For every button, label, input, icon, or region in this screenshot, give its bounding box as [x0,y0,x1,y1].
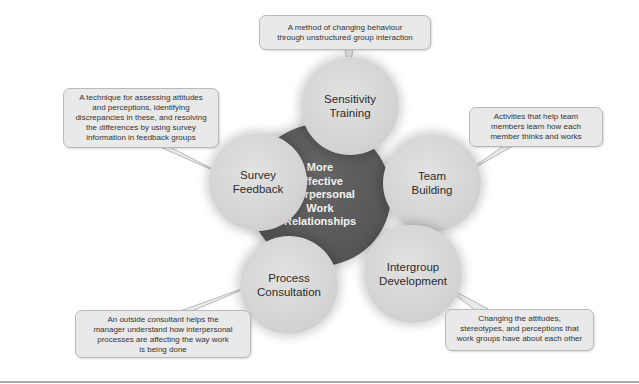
node-sensitivity-training: Sensitivity Training [301,57,399,155]
callout-text: work groups have about each other [451,334,588,344]
node-process-consultation: Process Consultation [240,236,338,334]
callout-text: through unstructured group interaction [265,33,425,43]
node-label: Intergroup [379,260,447,274]
bottom-divider [0,381,639,383]
callout-process-consultation: An outside consultant helps the manager … [75,310,251,358]
callout-survey-feedback: A technique for assessing attitudes and … [63,88,219,148]
callout-team-building: Activities that help team members learn … [469,107,603,147]
node-label: Training [324,106,376,120]
callout-sensitivity-training: A method of changing behaviour through u… [259,15,431,50]
callout-text: processes are affecting the way work [81,335,245,345]
callout-text: Activities that help team [475,112,597,122]
callout-text: information in feedback groups [69,133,213,143]
node-survey-feedback: Survey Feedback [209,133,307,231]
node-label: Feedback [233,182,284,196]
node-label: Development [379,274,447,288]
node-label: Sensitivity [324,92,376,106]
node-label: Building [412,183,453,197]
callout-text: manager understand how interpersonal [81,325,245,335]
callout-text: Changing the attitudes, [451,314,588,324]
diagram-canvas: More Effective Interpersonal Work Relati… [0,0,639,384]
callout-intergroup-development: Changing the attitudes, stereotypes, and… [445,309,594,351]
node-team-building: Team Building [383,134,481,232]
callout-text: is being done [81,345,245,355]
node-intergroup-development: Intergroup Development [364,225,462,323]
node-label: Team [412,169,453,183]
callout-text: members learn how each [475,122,597,132]
callout-text: A technique for assessing attitudes [69,93,213,103]
callout-text: the differences by using survey [69,123,213,133]
callout-text: A method of changing behaviour [265,23,425,33]
callout-text: stereotypes, and perceptions that [451,324,588,334]
callout-text: discrepancies in these, and resolving [69,113,213,123]
node-label: Survey [233,168,284,182]
callout-text: An outside consultant helps the [81,315,245,325]
center-line: Relationships [284,215,356,229]
node-label: Process [257,271,321,285]
callout-text: and perceptions, identifying [69,103,213,113]
node-label: Consultation [257,285,321,299]
callout-text: member thinks and works [475,132,597,142]
